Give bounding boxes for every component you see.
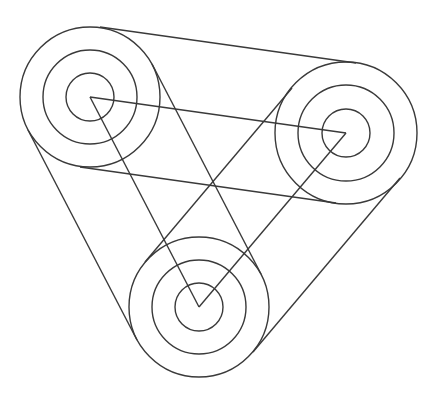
center-bottom-to-right (199, 133, 346, 307)
belt-top-left-to-bottom-outer (28, 130, 137, 340)
belt-top-left-to-bottom-inner (152, 64, 261, 274)
pulleys (20, 27, 417, 377)
belt-lines (28, 27, 400, 352)
belt-top-left-to-right-outer (100, 27, 356, 63)
center-top-left-to-bottom (90, 97, 199, 307)
belt-bottom-to-right-upper (145, 88, 292, 262)
belt-bottom-to-right-outer (253, 178, 400, 352)
pulley-belt-diagram (0, 0, 443, 397)
center-top-left-to-right (90, 97, 346, 133)
